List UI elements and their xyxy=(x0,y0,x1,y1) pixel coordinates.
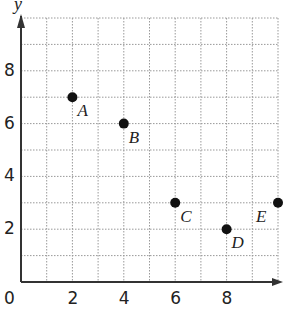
y-tick-label: 6 xyxy=(4,113,15,133)
data-point-e xyxy=(273,198,283,208)
x-tick-label: 4 xyxy=(119,288,130,308)
point-label-a: A xyxy=(77,101,87,121)
point-label-d: D xyxy=(232,233,244,253)
x-tick-label: 8 xyxy=(222,288,233,308)
y-tick-label: 2 xyxy=(4,218,15,238)
data-point-b xyxy=(119,119,129,129)
y-axis-label: y xyxy=(14,0,22,15)
x-tick-label: 2 xyxy=(67,288,78,308)
point-label-b: B xyxy=(129,128,139,148)
y-tick-label: 8 xyxy=(4,60,15,80)
scatter-plot xyxy=(0,0,284,310)
x-tick-label: 6 xyxy=(170,288,181,308)
x-tick-label: 0 xyxy=(4,288,15,308)
point-label-e: E xyxy=(256,207,266,227)
y-axis-arrow-icon xyxy=(17,14,25,28)
point-label-c: C xyxy=(180,207,191,227)
y-tick-label: 4 xyxy=(4,165,15,185)
data-point-d xyxy=(222,224,232,234)
data-point-a xyxy=(67,92,77,102)
data-point-c xyxy=(170,198,180,208)
